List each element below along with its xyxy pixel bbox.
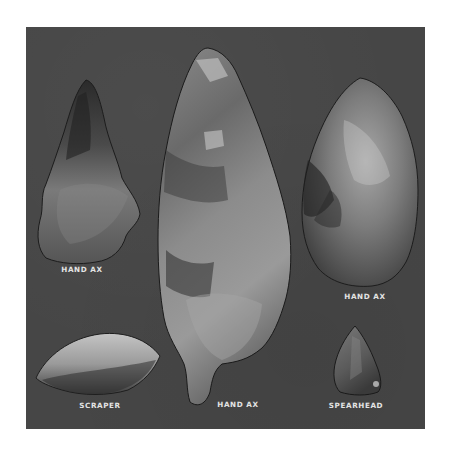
artifacts-illustration bbox=[0, 0, 449, 450]
label-scraper: SCRAPER bbox=[79, 402, 120, 410]
label-hand-ax-left: HAND AX bbox=[61, 266, 102, 274]
label-hand-ax-center: HAND AX bbox=[217, 401, 258, 409]
label-hand-ax-right: HAND AX bbox=[344, 293, 385, 301]
hand-ax-center bbox=[158, 48, 291, 405]
spearhead bbox=[334, 326, 381, 395]
hand-ax-right bbox=[302, 78, 418, 286]
hand-ax-left bbox=[38, 80, 140, 264]
scraper bbox=[36, 333, 160, 394]
label-spearhead: SPEARHEAD bbox=[329, 402, 383, 410]
